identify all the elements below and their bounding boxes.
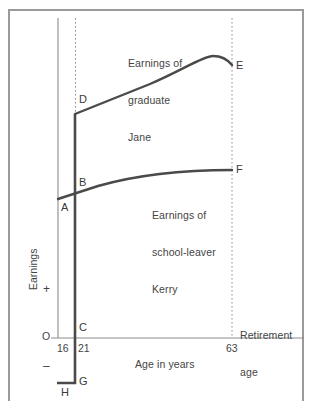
retirement-age-label-line1: Retirement [240, 329, 292, 341]
x-axis-title: Age in years [135, 358, 195, 370]
kerry-series-label-line2: school-leaver [152, 246, 216, 258]
jane-series-label-line1: Earnings of [128, 57, 182, 69]
y-axis-origin-label: O [42, 331, 50, 342]
x-tick-label-63: 63 [226, 343, 238, 354]
x-tick-label-16: 16 [57, 343, 69, 354]
point-label-b: B [79, 177, 86, 188]
jane-series-label: Earnings of graduate Jane [128, 33, 182, 167]
point-label-f: F [236, 164, 243, 175]
point-label-d: D [79, 94, 87, 105]
retirement-age-label-line2: age [240, 366, 292, 378]
kerry-series-label-line1: Earnings of [152, 209, 216, 221]
point-label-a: A [61, 202, 68, 213]
x-tick-label-21: 21 [78, 343, 90, 354]
jane-series-label-line2: graduate [128, 94, 182, 106]
y-axis-plus-sign: + [43, 283, 50, 295]
kerry-series-label: Earnings of school-leaver Kerry [152, 185, 216, 319]
kerry-series-label-line3: Kerry [152, 283, 216, 295]
point-label-h: H [61, 387, 69, 398]
y-axis-minus-sign: – [43, 360, 50, 372]
retirement-age-label: Retirement age [240, 305, 292, 401]
earnings-age-chart-figure: Earnings of graduate Jane Earnings of sc… [0, 0, 315, 401]
jane-series-label-line3: Jane [128, 131, 182, 143]
point-label-e: E [236, 60, 243, 71]
point-label-g: G [79, 376, 88, 387]
y-axis-title: Earnings [27, 249, 39, 290]
point-label-c: C [79, 322, 87, 333]
